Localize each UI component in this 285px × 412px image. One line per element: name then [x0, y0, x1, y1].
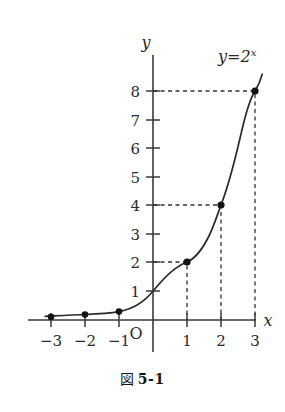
- y-tick-label-8: 8: [130, 83, 140, 101]
- y-tick-label-2: 2: [130, 254, 140, 272]
- data-point--1: [116, 308, 123, 315]
- y-tick-label-4: 4: [130, 197, 140, 215]
- x-axis-label: x: [263, 311, 272, 330]
- y-tick-label-7: 7: [130, 112, 140, 130]
- y-tick-label-6: 6: [130, 140, 140, 158]
- curve-equation-label: y=2x: [217, 47, 257, 66]
- caption-number: 5-1: [138, 371, 165, 387]
- x-tick-label-2: 2: [216, 332, 226, 350]
- y-axis-label: y: [140, 33, 151, 52]
- data-point--3: [48, 314, 55, 321]
- y-tick-label-5: 5: [130, 169, 140, 187]
- y-tick-label-1: 1: [130, 283, 140, 301]
- x-tick-label-1: 1: [182, 332, 192, 350]
- chart-plot-area: −3 −2 −1 1 2 3 1 2 3 4 5 6 7 8 O x y y=2…: [0, 0, 285, 370]
- caption-figure-word: 図: [120, 371, 135, 387]
- y-tick-label-3: 3: [130, 226, 140, 244]
- exponential-function-chart: −3 −2 −1 1 2 3 1 2 3 4 5 6 7 8 O x y y=2…: [0, 0, 285, 370]
- data-point-3: [251, 87, 258, 94]
- figure-caption: 図5-1: [0, 368, 285, 388]
- x-tick-label--2: −2: [74, 332, 96, 350]
- data-point--2: [82, 311, 89, 318]
- data-point-2: [217, 201, 224, 208]
- x-tick-label--1: −1: [108, 332, 130, 350]
- curve-equation-exponent: x: [251, 47, 257, 58]
- figure-container: −3 −2 −1 1 2 3 1 2 3 4 5 6 7 8 O x y y=2…: [0, 0, 285, 412]
- origin-label: O: [129, 324, 142, 343]
- x-tick-label--3: −3: [40, 332, 62, 350]
- x-tick-label-3: 3: [250, 332, 260, 350]
- curve-equation-base: y=2: [217, 47, 251, 66]
- data-point-1: [183, 258, 190, 265]
